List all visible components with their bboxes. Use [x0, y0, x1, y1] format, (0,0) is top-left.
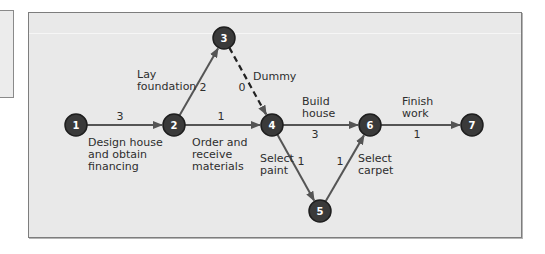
activity-duration: 1 [298, 155, 305, 168]
activity-label-line: financing [88, 160, 139, 173]
activity-label-line: materials [192, 160, 244, 173]
activity-duration: 1 [218, 110, 225, 123]
network-diagram: 1234567 Design houseand obtainfinancing3… [0, 0, 545, 254]
activity-label: Buildhouse [302, 95, 335, 120]
activity-label-line: Dummy [253, 70, 297, 83]
activity-label-line: paint [260, 164, 289, 177]
activity-label-line: house [302, 107, 335, 120]
activity-duration: 3 [117, 110, 124, 123]
event-node-2: 2 [163, 114, 185, 136]
event-node-6: 6 [359, 114, 381, 136]
activity-duration: 1 [337, 155, 344, 168]
activity-duration: 2 [200, 81, 207, 94]
event-node-label: 6 [367, 120, 374, 131]
activity-duration: 3 [312, 128, 319, 141]
event-node-3: 3 [213, 27, 235, 49]
event-node-7: 7 [461, 114, 483, 136]
activity-label: Order andreceivematerials [192, 136, 247, 173]
event-node-label: 1 [73, 120, 80, 131]
event-node-5: 5 [309, 200, 331, 222]
activity-label-line: carpet [358, 164, 394, 177]
event-node-4: 4 [261, 114, 283, 136]
activity-label: Selectpaint [260, 152, 295, 177]
event-node-label: 7 [469, 120, 476, 131]
activity-label: Finishwork [402, 95, 433, 120]
activity-duration: 1 [414, 128, 421, 141]
activity-label: Dummy [253, 70, 297, 83]
activity-label: Design houseand obtainfinancing [88, 136, 163, 173]
event-node-1: 1 [65, 114, 87, 136]
activity-label: Selectcarpet [358, 152, 394, 177]
activity-label-line: work [402, 107, 429, 120]
event-node-label: 5 [317, 206, 324, 217]
activity-duration: 0 [239, 81, 246, 94]
activity-label-line: foundation [137, 80, 196, 93]
event-node-label: 4 [269, 120, 276, 131]
event-node-label: 3 [221, 33, 228, 44]
activity-label: Layfoundation [137, 68, 196, 93]
event-node-label: 2 [171, 120, 178, 131]
